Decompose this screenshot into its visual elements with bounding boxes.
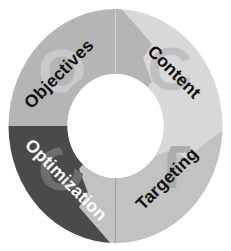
center-hole [68, 74, 164, 178]
cycle-diagram-svg: O C T O Objectives Content Targeting Opt… [0, 0, 231, 251]
cycle-diagram: O C T O Objectives Content Targeting Opt… [0, 0, 231, 251]
